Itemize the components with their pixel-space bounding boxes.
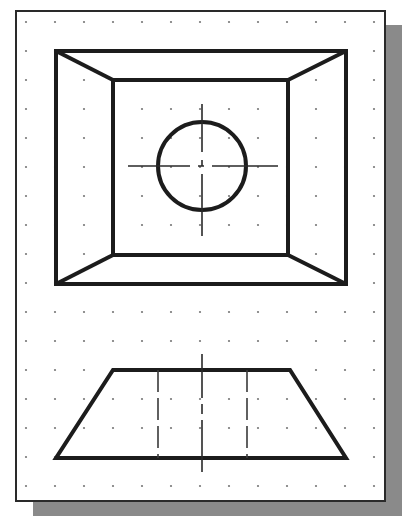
grid-dot [112, 21, 114, 23]
grid-dot [315, 311, 317, 313]
grid-dot [170, 108, 172, 110]
grid-dot [54, 398, 56, 400]
grid-dot [315, 137, 317, 139]
grid-dot [228, 398, 230, 400]
corner-edge-top-right [288, 51, 346, 80]
grid-dot [257, 427, 259, 429]
grid-dot [344, 21, 346, 23]
grid-dot [373, 224, 375, 226]
grid-dot [54, 311, 56, 313]
grid-dot [83, 369, 85, 371]
grid-dot [373, 137, 375, 139]
grid-dot [373, 79, 375, 81]
grid-dot [257, 485, 259, 487]
grid-dot [170, 427, 172, 429]
grid-dot [25, 224, 27, 226]
grid-dot [257, 398, 259, 400]
grid-dot [54, 21, 56, 23]
grid-dot [54, 369, 56, 371]
grid-dot [141, 485, 143, 487]
grid-dot [373, 485, 375, 487]
grid-dot [141, 195, 143, 197]
corner-edge-bottom-right [288, 255, 346, 284]
grid-dot [373, 50, 375, 52]
outer-rectangle [56, 51, 346, 284]
grid-dot [170, 224, 172, 226]
grid-dot [83, 340, 85, 342]
grid-dot [344, 311, 346, 313]
top-view [56, 51, 346, 284]
grid-dot [199, 137, 201, 139]
grid-dot [344, 427, 346, 429]
grid-dot [373, 253, 375, 255]
grid-dot [373, 311, 375, 313]
grid-dot [112, 485, 114, 487]
grid-dot [257, 137, 259, 139]
grid-dot [315, 166, 317, 168]
grid-dot [373, 195, 375, 197]
grid-dot [199, 224, 201, 226]
grid-dot [199, 340, 201, 342]
grid-dot [83, 79, 85, 81]
grid-dot [315, 485, 317, 487]
grid-dot [54, 485, 56, 487]
grid-dot [141, 427, 143, 429]
grid-dot [257, 224, 259, 226]
grid-dot [344, 398, 346, 400]
corner-edge-bottom-left [56, 255, 113, 284]
grid-dot [170, 485, 172, 487]
grid-dot [25, 21, 27, 23]
grid-dot [83, 108, 85, 110]
grid-dot [228, 21, 230, 23]
grid-dot [83, 21, 85, 23]
grid-dot [199, 427, 201, 429]
grid-dot [83, 427, 85, 429]
grid-dot [25, 456, 27, 458]
grid-dot [257, 340, 259, 342]
grid-dot [315, 253, 317, 255]
grid-dot [170, 21, 172, 23]
grid-dot [112, 398, 114, 400]
grid-dot [228, 311, 230, 313]
grid-dot [315, 369, 317, 371]
grid-dot [315, 427, 317, 429]
grid-dot [315, 398, 317, 400]
grid-dot [141, 398, 143, 400]
drawing-canvas [0, 0, 406, 516]
grid-dot [373, 427, 375, 429]
grid-dot [315, 79, 317, 81]
grid-dot [112, 311, 114, 313]
grid-dot [83, 224, 85, 226]
grid-dot [286, 311, 288, 313]
grid-dot [25, 427, 27, 429]
grid-dot [344, 369, 346, 371]
grid-dot [286, 21, 288, 23]
grid-dot [83, 311, 85, 313]
grid-dot [286, 427, 288, 429]
grid-dot [141, 311, 143, 313]
grid-dot [373, 398, 375, 400]
grid-dot [25, 108, 27, 110]
grid-dot [170, 398, 172, 400]
grid-dot [315, 195, 317, 197]
grid-dot [257, 311, 259, 313]
grid-dot [315, 21, 317, 23]
grid-dot [373, 166, 375, 168]
grid-dot [373, 108, 375, 110]
grid-dot [25, 166, 27, 168]
grid-dot [25, 50, 27, 52]
grid-dot [373, 369, 375, 371]
grid-dot [25, 398, 27, 400]
grid-dot [54, 427, 56, 429]
grid-dot [141, 224, 143, 226]
grid-dot [141, 108, 143, 110]
grid-dot [228, 340, 230, 342]
grid-dot [83, 485, 85, 487]
grid-dot [373, 340, 375, 342]
grid-dot [83, 398, 85, 400]
grid-dot [199, 485, 201, 487]
grid-dot [257, 108, 259, 110]
grid-dot [373, 21, 375, 23]
grid-dot [199, 311, 201, 313]
grid-dot [257, 21, 259, 23]
